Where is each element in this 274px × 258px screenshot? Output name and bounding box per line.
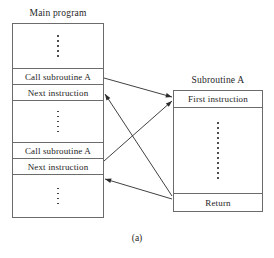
ellipsis-dot-icon xyxy=(217,122,219,124)
main-program-row-call-subroutine-a-1: Call subroutine A xyxy=(13,69,103,85)
main-program-row-call-subroutine-a-4: Call subroutine A xyxy=(13,143,103,159)
row-label: Return xyxy=(205,198,230,208)
arrow-return-to-next-instruction-2 xyxy=(105,179,172,199)
ellipsis-dot-icon xyxy=(57,121,59,123)
arrow-call-2-to-first-instruction xyxy=(104,101,172,161)
ellipsis-dot-icon xyxy=(217,142,219,144)
main-program-box: Call subroutine ANext instructionCall su… xyxy=(12,23,104,218)
figure-subroutine-call-diagram: Main program Call subroutine ANext instr… xyxy=(0,0,274,258)
ellipsis-dot-icon xyxy=(57,198,59,200)
subroutine-ellipsis-row xyxy=(174,108,262,194)
main-program-ellipsis-row xyxy=(13,175,103,217)
main-program-row-next-instruction-2: Next instruction xyxy=(13,85,103,101)
row-label: Next instruction xyxy=(28,162,89,172)
arrowhead-icon xyxy=(165,93,172,97)
ellipsis-dot-icon xyxy=(217,157,219,159)
ellipsis-dot-icon xyxy=(217,152,219,154)
ellipsis-dot-icon xyxy=(57,50,59,52)
arrowhead-icon xyxy=(105,179,112,183)
row-label: Call subroutine A xyxy=(25,146,91,156)
ellipsis-dot-icon xyxy=(57,40,59,42)
row-label: First instruction xyxy=(188,94,248,104)
ellipsis-dot-icon xyxy=(217,127,219,129)
subroutine-box: First instructionReturn xyxy=(173,90,263,212)
main-program-row-next-instruction-5: Next instruction xyxy=(13,159,103,175)
figure-caption: (a) xyxy=(0,232,274,244)
ellipsis-dot-icon xyxy=(57,131,59,133)
ellipsis-dot-icon xyxy=(57,55,59,57)
subroutine-row-return-2: Return xyxy=(174,194,262,211)
ellipsis-dot-icon xyxy=(57,193,59,195)
arrow-call-1-to-first-instruction xyxy=(104,78,172,98)
main-program-title: Main program xyxy=(12,8,104,19)
ellipsis-dot-icon xyxy=(217,162,219,164)
ellipsis-dot-icon xyxy=(217,172,219,174)
ellipsis-dot-icon xyxy=(217,137,219,139)
ellipsis-dot-icon xyxy=(217,167,219,169)
row-label: Call subroutine A xyxy=(25,72,91,82)
main-program-ellipsis-row xyxy=(13,101,103,143)
ellipsis-dot-icon xyxy=(217,132,219,134)
ellipsis-dot-icon xyxy=(57,188,59,190)
ellipsis-dot-icon xyxy=(57,45,59,47)
ellipsis-dot-icon xyxy=(57,116,59,118)
ellipsis-dot-icon xyxy=(57,111,59,113)
main-program-ellipsis-row xyxy=(13,24,103,69)
arrowhead-icon xyxy=(105,94,110,100)
subroutine-title: Subroutine A xyxy=(173,75,263,86)
ellipsis-dot-icon xyxy=(57,126,59,128)
ellipsis-dot-icon xyxy=(217,177,219,179)
arrow-return-to-next-instruction-1 xyxy=(105,94,172,196)
subroutine-row-first-instruction-0: First instruction xyxy=(174,91,262,108)
ellipsis-dot-icon xyxy=(57,203,59,205)
arrowhead-icon xyxy=(166,101,172,107)
row-label: Next instruction xyxy=(28,88,89,98)
ellipsis-dot-icon xyxy=(57,35,59,37)
ellipsis-dot-icon xyxy=(217,147,219,149)
